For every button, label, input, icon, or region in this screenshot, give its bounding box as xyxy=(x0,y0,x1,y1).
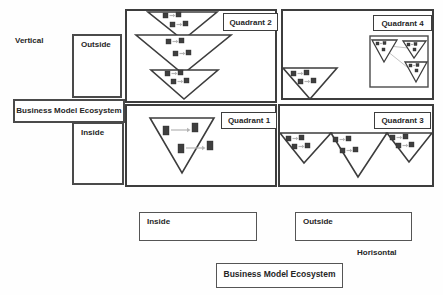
outside-left-box: Outside xyxy=(72,34,122,98)
quadrant-3-panel: Quadrant 3 xyxy=(278,104,434,187)
inside-left-label: Inside xyxy=(81,128,104,137)
quadrant-4-panel: Quadrant 4 xyxy=(281,9,434,100)
quadrant-2-label: Quadrant 2 xyxy=(223,13,278,31)
inside-bottom-box: Inside xyxy=(139,212,257,241)
ecosystem-left-box: Business Model Ecosystem xyxy=(13,99,125,123)
quadrant-1-panel: Quadrant 1 xyxy=(125,104,277,187)
horizontal-axis-label: Horisontal xyxy=(357,248,397,257)
quadrant-3-label: Quadrant 3 xyxy=(374,112,431,129)
vertical-axis-label: Vertical xyxy=(15,36,43,45)
inside-left-box: Inside xyxy=(72,122,124,185)
outside-bottom-box: Outside xyxy=(295,212,412,241)
quadrant-1-label: Quadrant 1 xyxy=(221,112,277,129)
ecosystem-bottom-label: Business Model Ecosystem xyxy=(217,264,342,279)
quadrant-4-label: Quadrant 4 xyxy=(373,15,432,31)
outside-bottom-label: Outside xyxy=(303,217,333,226)
outside-left-label: Outside xyxy=(81,40,111,49)
ecosystem-bottom-box: Business Model Ecosystem xyxy=(216,263,343,288)
inside-bottom-label: Inside xyxy=(147,217,170,226)
ecosystem-left-label: Business Model Ecosystem xyxy=(15,101,123,115)
quadrant-2-panel: Quadrant 2 xyxy=(125,9,277,103)
business-model-ecosystem-diagram: Vertical Outside Business Model Ecosyste… xyxy=(0,0,443,295)
